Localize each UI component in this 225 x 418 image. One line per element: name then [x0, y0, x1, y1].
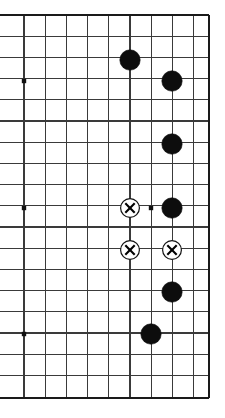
black-stone-disc — [162, 134, 182, 154]
black-stone-disc — [162, 198, 182, 218]
star-point-right-middle — [149, 206, 153, 210]
black-stone[interactable] — [162, 134, 182, 154]
star-point-left-middle — [22, 206, 26, 210]
star-point-left-upper — [22, 79, 26, 83]
black-stone-disc — [120, 50, 140, 70]
black-stone[interactable] — [162, 282, 182, 302]
white-stone-marked[interactable] — [121, 199, 140, 218]
black-stone-disc — [141, 324, 161, 344]
white-stone-marked[interactable] — [163, 241, 182, 260]
black-stone-disc — [162, 71, 182, 91]
star-point-left-lower — [22, 332, 26, 336]
black-stone[interactable] — [120, 50, 140, 70]
board-background — [0, 0, 225, 418]
black-stone[interactable] — [141, 324, 161, 344]
white-stone-marked[interactable] — [121, 241, 140, 260]
board-canvas[interactable] — [0, 0, 225, 418]
black-stone-disc — [162, 282, 182, 302]
go-board-diagram — [0, 0, 225, 418]
black-stone[interactable] — [162, 198, 182, 218]
black-stone[interactable] — [162, 71, 182, 91]
